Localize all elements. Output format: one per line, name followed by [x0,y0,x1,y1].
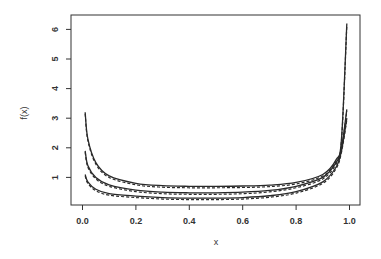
series-group [85,23,347,199]
y-tick-label: 4 [50,86,60,91]
curve-1-dashed-line [85,25,347,188]
y-tick-label: 6 [50,27,60,32]
y-tick-label: 5 [50,56,60,61]
x-axis: 0.00.20.40.60.81.0 [76,205,356,226]
y-tick-label: 1 [50,175,60,180]
x-axis-label: x [214,237,219,247]
x-tick-label: 0.8 [290,216,303,226]
x-tick-label: 0.4 [183,216,196,226]
y-tick-label: 2 [50,145,60,150]
line-chart: 0.00.20.40.60.81.0 123456 x f(x) [0,0,381,259]
curve-1-line [85,23,347,186]
x-tick-label: 0.6 [236,216,249,226]
y-tick-label: 3 [50,116,60,121]
y-axis-label: f(x) [19,107,29,120]
x-tick-label: 0.0 [76,216,89,226]
x-tick-label: 0.2 [130,216,143,226]
y-axis: 123456 [50,27,71,180]
x-tick-label: 1.0 [343,216,356,226]
